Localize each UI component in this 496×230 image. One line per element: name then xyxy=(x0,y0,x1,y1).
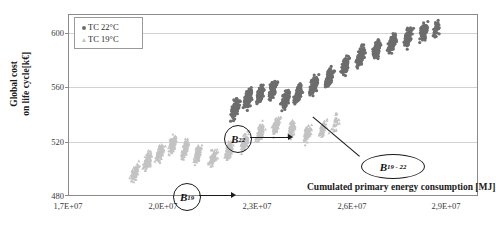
data-point xyxy=(258,96,261,99)
y-tick-label: 480 xyxy=(30,192,64,201)
annotation-b19-arrow-head xyxy=(231,192,236,198)
data-point xyxy=(261,119,264,122)
data-point xyxy=(387,51,390,54)
chart-screenshot: Global cost on life cycle[k€] 600 560 52… xyxy=(0,0,496,230)
data-point xyxy=(356,58,359,61)
data-point xyxy=(317,73,320,76)
data-point xyxy=(327,132,330,135)
data-point xyxy=(246,92,249,95)
data-point xyxy=(330,65,333,68)
y-axis-title-line1: Global cost xyxy=(9,61,19,107)
circle-marker-icon xyxy=(79,22,88,32)
data-point xyxy=(326,118,329,121)
data-point xyxy=(388,39,391,42)
data-point xyxy=(184,137,187,140)
data-point xyxy=(310,123,313,126)
data-point xyxy=(280,109,283,112)
annotation-b19-sub: 19 xyxy=(187,194,194,201)
data-point xyxy=(309,92,312,95)
data-point xyxy=(437,27,440,30)
data-point xyxy=(376,49,379,52)
data-point xyxy=(329,73,332,76)
data-point xyxy=(360,52,363,55)
data-point xyxy=(326,70,329,73)
data-point xyxy=(390,45,393,48)
data-point xyxy=(421,29,424,32)
data-point xyxy=(160,143,163,146)
x-tick-label: 2,6E+07 xyxy=(317,201,387,211)
annotation-b22-sub: 22 xyxy=(238,136,245,143)
legend-label-tc-19: TC 19°C xyxy=(88,34,119,44)
annotation-b19-22-label: B xyxy=(380,161,387,173)
data-point xyxy=(406,48,409,51)
data-point xyxy=(376,44,379,47)
data-point xyxy=(422,36,425,39)
y-axis-tick-labels: 600 560 520 480 xyxy=(26,0,64,230)
data-point xyxy=(411,28,414,31)
data-point xyxy=(236,106,239,109)
x-axis-title: Cumulated primary energy consumption [MJ… xyxy=(307,182,495,192)
data-point xyxy=(262,83,265,86)
data-point xyxy=(326,82,329,85)
annotation-b22-arrow-head xyxy=(288,134,293,140)
data-point xyxy=(250,86,253,89)
data-point xyxy=(236,103,239,106)
data-point xyxy=(298,92,301,95)
data-point xyxy=(213,148,216,151)
data-point xyxy=(328,76,331,79)
annotation-b22: B22 xyxy=(224,125,252,153)
data-point xyxy=(287,93,290,96)
data-point xyxy=(312,76,315,79)
data-point xyxy=(297,87,300,90)
data-point xyxy=(258,100,261,103)
annotation-b19-22: B19 - 22 xyxy=(361,154,425,179)
data-point xyxy=(284,89,287,92)
data-point xyxy=(313,80,316,83)
data-point xyxy=(231,115,234,118)
chart-legend: TC 22°C TC 19°C xyxy=(74,17,143,49)
data-point xyxy=(200,144,203,147)
data-point xyxy=(426,29,429,32)
data-point xyxy=(315,81,318,84)
data-point xyxy=(407,28,410,31)
series-tc-22 xyxy=(229,19,441,123)
data-point xyxy=(299,82,302,85)
triangle-marker-icon xyxy=(79,34,88,44)
y-tickmark-480 xyxy=(65,195,69,196)
data-point xyxy=(282,106,285,109)
data-point xyxy=(335,111,338,114)
data-point xyxy=(323,120,326,123)
data-point xyxy=(310,81,313,84)
data-point xyxy=(244,95,247,98)
data-point xyxy=(269,94,272,97)
data-point xyxy=(433,31,436,34)
x-tick-label: 2,9E+07 xyxy=(411,201,481,211)
legend-item-tc-22: TC 22°C xyxy=(79,21,138,33)
annotation-b19-22-sub: 19 - 22 xyxy=(387,163,406,170)
data-point xyxy=(404,37,407,40)
y-tick-label: 600 xyxy=(30,29,64,38)
data-point xyxy=(375,56,378,59)
data-point xyxy=(422,21,425,24)
data-point xyxy=(137,160,140,163)
data-point xyxy=(403,42,406,45)
data-point xyxy=(307,124,310,127)
legend-label-tc-22: TC 22°C xyxy=(88,22,119,32)
data-point xyxy=(391,37,394,40)
data-point xyxy=(407,36,410,39)
data-point xyxy=(272,89,275,92)
data-point xyxy=(255,100,258,103)
data-point xyxy=(292,99,295,102)
data-point xyxy=(345,62,348,65)
data-point xyxy=(273,92,276,95)
data-point xyxy=(229,120,232,123)
data-point xyxy=(274,83,277,86)
data-point xyxy=(296,94,299,97)
annotation-b19: B19 xyxy=(173,183,201,211)
data-point xyxy=(304,143,307,146)
y-tick-label: 520 xyxy=(30,138,64,147)
data-point xyxy=(310,83,313,86)
data-point xyxy=(311,94,314,97)
data-point xyxy=(423,25,426,28)
data-point xyxy=(296,99,299,102)
